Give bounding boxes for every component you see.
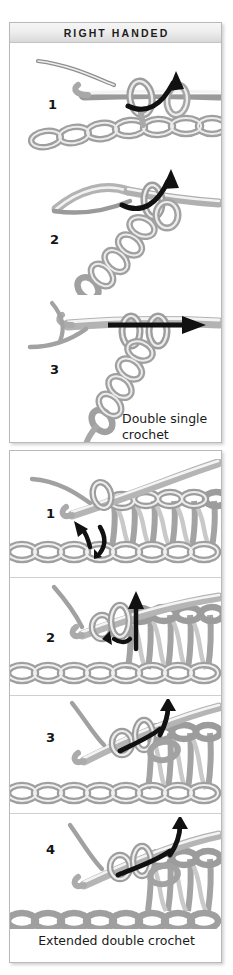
- panel-extended-double-crochet: 1: [9, 450, 222, 963]
- row-divider-1: [10, 577, 221, 578]
- row-divider-2: [10, 695, 221, 696]
- caption-line-1: Double single: [122, 411, 222, 427]
- yarn-loop-icon: [10, 155, 221, 295]
- step-number-ex-2: 2: [46, 631, 55, 644]
- step-number-ex-1: 1: [46, 507, 55, 520]
- illustration-stage-right-handed: 1: [10, 43, 221, 443]
- panel-header-bar: RIGHT HANDED: [10, 23, 221, 43]
- panel-right-handed: RIGHT HANDED: [9, 22, 222, 443]
- step-illustration-ex-1: [10, 459, 221, 569]
- illustration-stage-extended: 1: [10, 451, 221, 962]
- caption-double-single-crochet: Double single crochet: [122, 411, 222, 442]
- caption-line-2: crochet: [122, 427, 222, 443]
- yarn-loop-icon: [10, 581, 221, 691]
- step-number-ex-4: 4: [46, 843, 55, 856]
- caption-extended-double-crochet: Extended double crochet: [10, 933, 222, 949]
- yarn-loop-icon: [10, 459, 221, 569]
- yarn-loop-icon: [10, 817, 221, 929]
- step-number-3: 3: [50, 363, 59, 376]
- step-number-2: 2: [50, 233, 59, 246]
- yarn-loop-icon: [10, 699, 221, 811]
- row-divider-3: [10, 813, 221, 814]
- yarn-loop-icon: [10, 43, 221, 155]
- step-illustration-2: [10, 155, 221, 295]
- step-illustration-ex-2: [10, 581, 221, 691]
- step-illustration-ex-4: [10, 817, 221, 929]
- step-number-ex-3: 3: [46, 731, 55, 744]
- step-illustration-1: [10, 43, 221, 155]
- page-root: RIGHT HANDED: [0, 0, 233, 975]
- page-title: RIGHT HANDED: [62, 27, 170, 39]
- step-number-1: 1: [48, 98, 57, 111]
- step-illustration-ex-3: [10, 699, 221, 811]
